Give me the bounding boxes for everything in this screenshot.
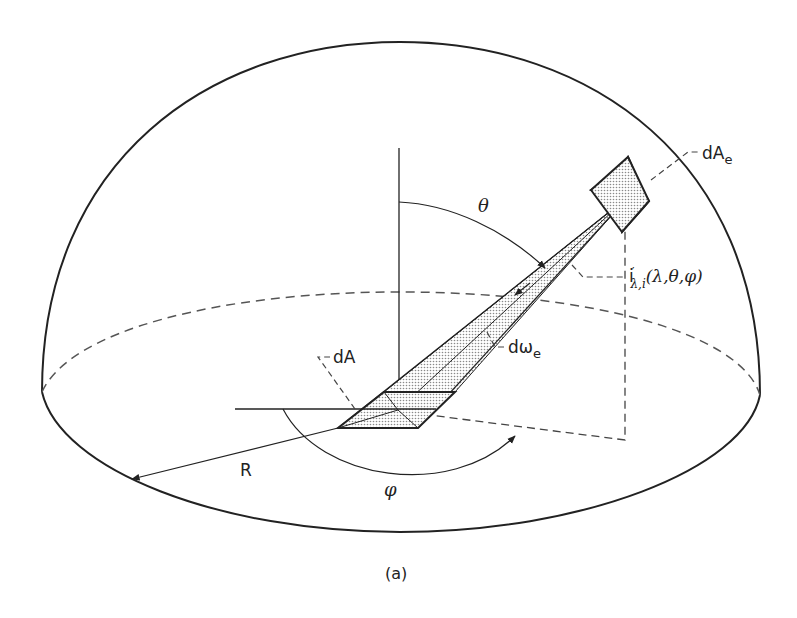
label-intensity: i′λ,i(λ,θ,φ) — [629, 265, 703, 291]
hemisphere-diagram: dAe θ i′λ,i(λ,θ,φ) dωe dA R φ (a) — [0, 0, 797, 618]
label-dA: dA — [333, 347, 356, 367]
label-R: R — [240, 460, 252, 480]
theta-arc — [399, 202, 545, 268]
figure-caption: (a) — [385, 564, 407, 583]
leader-intensity — [572, 265, 625, 277]
label-domega: dωe — [508, 337, 541, 361]
label-dAe: dAe — [702, 143, 732, 167]
hemisphere-dome — [42, 42, 760, 395]
label-theta: θ — [478, 195, 489, 216]
radius-line — [132, 428, 338, 479]
label-phi: φ — [384, 479, 397, 500]
